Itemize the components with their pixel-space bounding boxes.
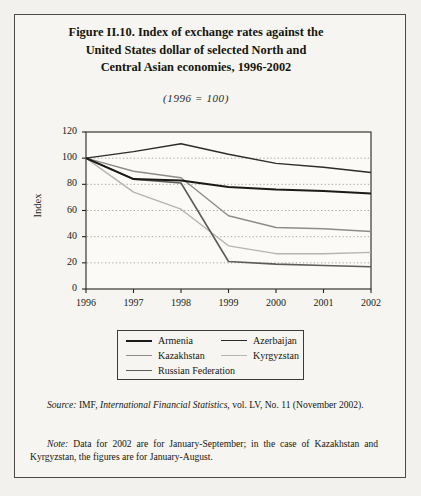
- note-text: Data for 2002 are for January-September;…: [30, 438, 378, 462]
- y-axis-tick-label: 0: [47, 282, 77, 293]
- x-axis-tick-label: 1997: [113, 297, 155, 308]
- x-axis-tick-label: 1998: [160, 297, 202, 308]
- legend-swatch-line-icon: [126, 340, 152, 342]
- source-publication: International Financial Statistics,: [100, 399, 230, 410]
- legend-label: Azerbaijan: [253, 335, 297, 346]
- x-axis-tick-label: 1996: [65, 297, 107, 308]
- y-axis-tick-label: 120: [47, 125, 77, 136]
- line-chart: [0, 0, 421, 496]
- chart-legend: ArmeniaAzerbaijanKazakhstanKyrgyzstanRus…: [117, 330, 304, 380]
- source-note: Source: IMF, International Financial Sta…: [30, 398, 378, 411]
- y-axis-tick-label: 100: [47, 151, 77, 162]
- y-axis-tick-label: 20: [47, 256, 77, 267]
- x-axis-tick-label: 2000: [255, 297, 297, 308]
- y-axis-tick-label: 80: [47, 177, 77, 188]
- note-label: Note:: [47, 438, 68, 449]
- y-axis-tick-label: 60: [47, 204, 77, 215]
- legend-label: Kyrgyzstan: [253, 350, 299, 361]
- legend-label: Kazakhstan: [158, 350, 205, 361]
- legend-item: Azerbaijan: [221, 335, 297, 346]
- legend-item: Russian Federation: [126, 365, 235, 376]
- source-text-1: IMF,: [79, 399, 100, 410]
- legend-item: Armenia: [126, 335, 193, 346]
- y-axis-tick-label: 40: [47, 230, 77, 241]
- legend-item: Kyrgyzstan: [221, 350, 299, 361]
- legend-item: Kazakhstan: [126, 350, 205, 361]
- legend-swatch-line-icon: [221, 355, 247, 356]
- legend-swatch-line-icon: [126, 370, 152, 371]
- legend-swatch-line-icon: [126, 355, 152, 356]
- legend-label: Russian Federation: [158, 365, 235, 376]
- x-axis-tick-label: 2002: [350, 297, 392, 308]
- source-text-2: vol. LV, No. 11 (November 2002).: [230, 399, 364, 410]
- legend-swatch-line-icon: [221, 340, 247, 341]
- legend-label: Armenia: [158, 335, 193, 346]
- x-axis-tick-label: 2001: [303, 297, 345, 308]
- chart-plot-area: Index 0204060801001201996199719981999200…: [0, 0, 421, 496]
- footnote: Note: Data for 2002 are for January-Sept…: [30, 437, 378, 464]
- x-axis-tick-label: 1999: [208, 297, 250, 308]
- figure-page: Figure II.10. Index of exchange rates ag…: [0, 0, 421, 496]
- source-label: Source:: [47, 399, 76, 410]
